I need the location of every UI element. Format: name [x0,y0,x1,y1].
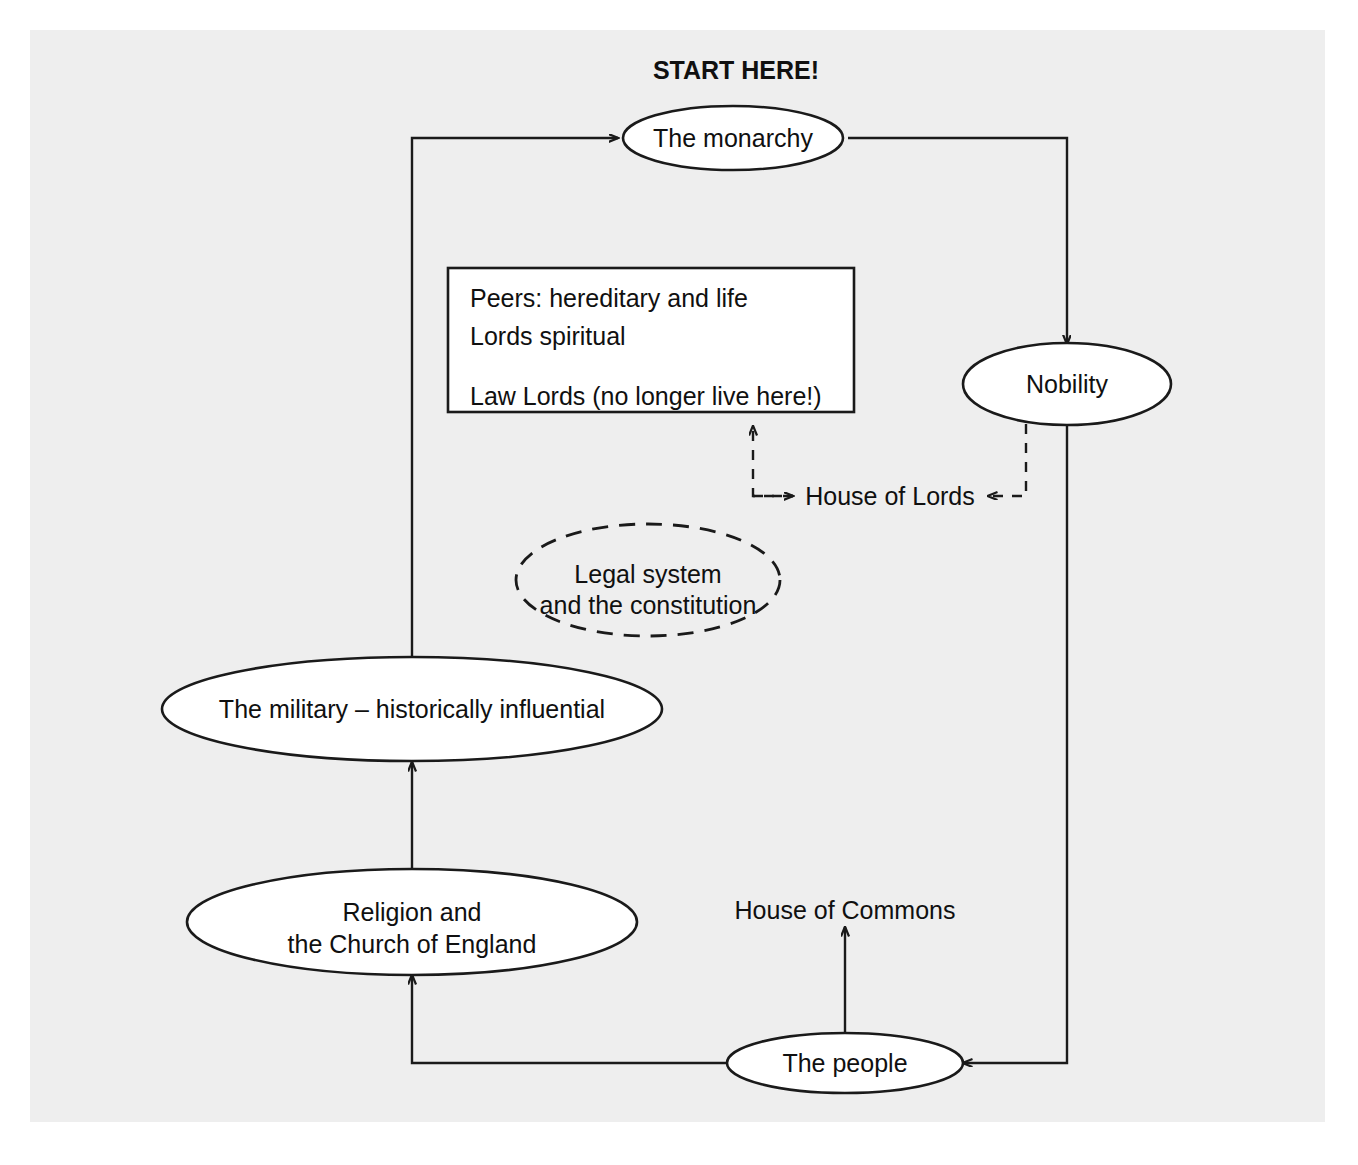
legal-system-line-2: and the constitution [540,591,757,619]
the-people-label: The people [782,1049,907,1077]
constitution-flow-diagram: START HERE! The monarchy Peers: heredita… [0,0,1358,1165]
house-of-commons-label: House of Commons [735,896,956,924]
node-nobility[interactable]: Nobility [963,343,1171,425]
house-of-lords-label: House of Lords [805,482,975,510]
start-here-title: START HERE! [653,56,819,84]
legal-system-line-1: Legal system [574,560,721,588]
node-the-people[interactable]: The people [727,1033,963,1093]
connector-monarchy-to-nobility [848,138,1067,344]
node-religion[interactable]: Religion and the Church of England [187,869,637,975]
connector-nobility-to-people [963,424,1067,1063]
connector-lords-label-to-box [753,426,793,496]
node-the-monarchy[interactable]: The monarchy [623,106,843,170]
nobility-label: Nobility [1026,370,1108,398]
diagram-canvas: START HERE! The monarchy Peers: heredita… [0,0,1358,1165]
lords-box-line-3: Law Lords (no longer live here!) [470,382,822,410]
lords-box[interactable]: Peers: hereditary and life Lords spiritu… [448,268,854,412]
the-military-label: The military – historically influential [219,695,605,723]
node-legal-system[interactable]: Legal system and the constitution [516,524,780,636]
connector-nobility-to-lords-label [988,424,1026,496]
lords-box-line-1: Peers: hereditary and life [470,284,748,312]
the-monarchy-label: The monarchy [653,124,813,152]
connector-people-to-religion [412,975,727,1063]
religion-line-2: the Church of England [288,930,537,958]
lords-box-line-2: Lords spiritual [470,322,626,350]
node-the-military[interactable]: The military – historically influential [162,657,662,761]
religion-line-1: Religion and [343,898,482,926]
